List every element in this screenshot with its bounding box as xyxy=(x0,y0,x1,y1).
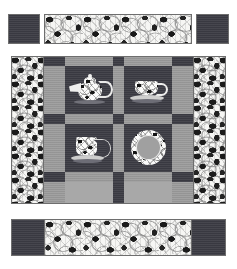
top-center-print-strip xyxy=(44,14,192,44)
cornerstone xyxy=(44,172,65,182)
cornerstone xyxy=(113,172,124,182)
sashing-bar xyxy=(124,172,172,182)
cornerstone xyxy=(113,182,124,203)
sashing-bar xyxy=(172,124,193,172)
teapot-handle-icon xyxy=(98,81,113,98)
cornerstone xyxy=(172,172,193,182)
top-right-corner-square xyxy=(196,14,229,44)
sashing-bar xyxy=(172,66,193,114)
bottom-center-print-strip xyxy=(44,219,192,256)
cornerstone xyxy=(44,114,65,124)
quilt-diagram-canvas xyxy=(0,0,237,269)
cornerstone xyxy=(113,114,124,124)
left-print-border xyxy=(12,57,44,203)
teacup-handle-icon xyxy=(155,83,168,96)
plate-center xyxy=(136,135,161,160)
teapot-shadow xyxy=(74,100,105,104)
sashing-bar xyxy=(65,57,113,66)
block-mug-saucer xyxy=(65,124,113,172)
block-teapot xyxy=(65,66,113,114)
sashing-grid xyxy=(44,57,193,203)
sashing-bar xyxy=(124,57,172,66)
sashing-bar xyxy=(65,182,113,203)
mug-shadow xyxy=(73,159,102,163)
sashing-bar xyxy=(44,124,65,172)
cornerstone xyxy=(44,57,65,66)
right-print-border xyxy=(193,57,225,203)
sashing-bar xyxy=(65,114,113,124)
sashing-bar xyxy=(113,124,124,172)
quilt-center-panel xyxy=(11,56,226,204)
sashing-bar xyxy=(124,114,172,124)
sashing-bar xyxy=(44,182,65,203)
teapot-knob-icon xyxy=(88,74,92,78)
saucer-shadow xyxy=(132,99,162,103)
block-teacup-saucer xyxy=(124,66,172,114)
teapot-spout-icon xyxy=(69,83,81,92)
block-plate xyxy=(124,124,172,172)
cornerstone xyxy=(113,57,124,66)
sashing-bar xyxy=(172,182,193,203)
cornerstone xyxy=(172,57,193,66)
sashing-bar xyxy=(124,182,172,203)
teapot-lid-icon xyxy=(84,77,96,84)
mug-handle-icon xyxy=(94,140,110,157)
top-left-corner-square xyxy=(8,14,40,44)
cornerstone xyxy=(172,114,193,124)
sashing-bar xyxy=(113,66,124,114)
sashing-bar xyxy=(65,172,113,182)
sashing-bar xyxy=(44,66,65,114)
